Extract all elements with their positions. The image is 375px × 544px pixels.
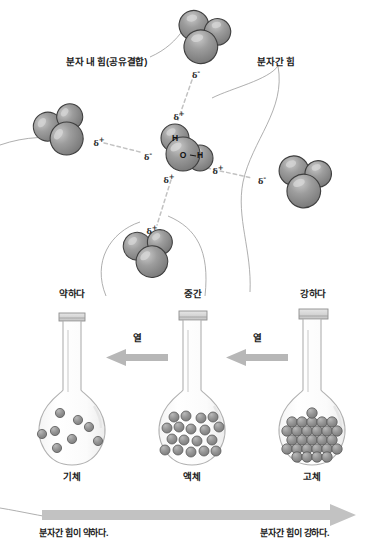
atom-label-h-right: H bbox=[197, 150, 203, 160]
strength-label-strong: 강하다 bbox=[300, 289, 326, 299]
caption-strong-force: 분자간 힘이 강하다. bbox=[260, 526, 329, 539]
figure-root: 분자 내 힘(공유결합) 분자간 힘 H O H δ+ δ- δ+ δ+ δ- … bbox=[0, 0, 375, 544]
strength-label-weak: 약하다 bbox=[59, 289, 85, 299]
delta-center-bottom: δ+ bbox=[163, 176, 174, 184]
molecule-right bbox=[273, 154, 333, 212]
delta-right-molecule: δ- bbox=[258, 177, 266, 185]
flask-gas bbox=[37, 313, 104, 465]
molecule-top bbox=[169, 7, 234, 71]
strength-label-medium: 중간 bbox=[184, 289, 202, 299]
delta-bottom-molecule: δ+ bbox=[146, 227, 157, 235]
delta-center-right: δ+ bbox=[212, 167, 223, 175]
heat-arrow-right bbox=[226, 349, 288, 366]
caption-weak-force: 분자간 힘이 약하다. bbox=[39, 526, 108, 539]
molecule-left bbox=[29, 99, 95, 164]
molecule-center bbox=[161, 124, 213, 171]
flask-liquid bbox=[159, 311, 225, 465]
atom-label-o: O bbox=[180, 150, 187, 160]
state-label-solid: 고체 bbox=[303, 472, 321, 482]
state-label-gas: 기체 bbox=[63, 472, 81, 482]
delta-left-molecule: δ+ bbox=[93, 139, 104, 147]
label-intramolecular-force: 분자 내 힘(공유결합) bbox=[66, 57, 147, 67]
diagram-canvas bbox=[0, 0, 375, 544]
delta-top-molecule: δ- bbox=[192, 71, 200, 79]
heat-label-right: 열 bbox=[253, 333, 262, 343]
state-label-liquid: 액체 bbox=[183, 472, 201, 482]
delta-center-top: δ+ bbox=[173, 113, 184, 121]
heat-label-left: 열 bbox=[133, 333, 142, 343]
label-intermolecular-force: 분자간 힘 bbox=[257, 57, 295, 67]
atom-label-h-top: H bbox=[172, 133, 178, 143]
delta-center-left: δ- bbox=[144, 153, 152, 161]
strength-arrow bbox=[42, 504, 356, 526]
flask-solid bbox=[279, 309, 345, 465]
heat-arrow-left bbox=[106, 349, 168, 366]
